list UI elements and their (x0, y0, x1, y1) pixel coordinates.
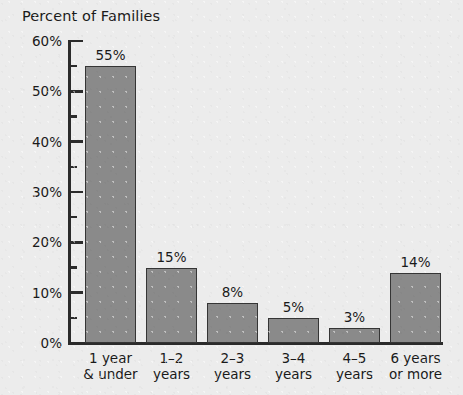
bar-value-label: 3% (329, 309, 380, 325)
bar-value-label: 15% (146, 249, 197, 265)
bar (390, 273, 441, 343)
x-axis-tick-label: 2–3years (198, 350, 267, 383)
bar (329, 328, 380, 343)
y-axis-tick-label: 40% (32, 134, 62, 150)
bar (85, 66, 136, 343)
bar (146, 268, 197, 344)
plot-area: 55%15%8%5%3%14% (68, 41, 443, 343)
bar-value-label: 5% (268, 299, 319, 315)
x-axis-label-line-2: years (198, 366, 267, 382)
bar (268, 318, 319, 343)
x-axis-label-line-2: & under (76, 366, 145, 382)
x-axis-label-line-2: years (320, 366, 389, 382)
x-axis-tick-label: 1–2years (137, 350, 206, 383)
x-axis-tick-label: 6 yearsor more (381, 350, 450, 383)
x-axis-label-line-1: 6 years (390, 350, 440, 366)
bar (207, 303, 258, 343)
y-axis-tick-label: 0% (41, 335, 62, 351)
x-axis-label-line-1: 2–3 (221, 350, 245, 366)
x-axis-label-line-2: years (259, 366, 328, 382)
y-axis-tick-label: 50% (32, 83, 62, 99)
bar-value-label: 8% (207, 284, 258, 300)
x-axis-label-line-1: 3–4 (282, 350, 306, 366)
y-axis-tick-label: 10% (32, 285, 62, 301)
y-axis-tick-label: 30% (32, 184, 62, 200)
bar-value-label: 55% (85, 47, 136, 63)
y-axis-tick-label: 60% (32, 33, 62, 49)
y-axis-tick-label: 20% (32, 234, 62, 250)
y-axis-tick-labels: 60%50%40%30%20%10%0% (0, 0, 62, 395)
x-axis-tick-label: 1 year& under (76, 350, 145, 383)
x-axis-label-line-1: 4–5 (343, 350, 367, 366)
x-axis-tick-label: 3–4years (259, 350, 328, 383)
x-axis-label-line-2: years (137, 366, 206, 382)
x-axis-label-line-2: or more (381, 366, 450, 382)
x-axis-label-line-1: 1–2 (160, 350, 184, 366)
x-axis-label-line-1: 1 year (89, 350, 132, 366)
x-axis-tick-label: 4–5years (320, 350, 389, 383)
bar-value-label: 14% (390, 254, 441, 270)
